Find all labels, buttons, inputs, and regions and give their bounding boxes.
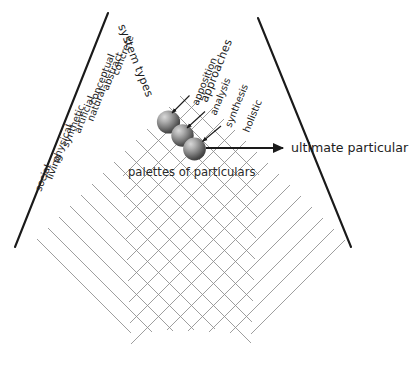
axis-ticks-approaches: apposition analysis synthesis holistic	[190, 56, 264, 134]
pointer-arrow-1	[172, 96, 190, 114]
grid-lines-down-left	[123, 97, 345, 344]
field-label-palettes: palettes of particulars	[128, 165, 255, 179]
callout-label-ultimate-particular: ultimate particular	[291, 140, 409, 155]
diagram-canvas: system types approaches concrete abstrac…	[0, 0, 414, 367]
axis-ticks-system-types: concrete abstract conceptual natural art…	[33, 33, 136, 192]
axis-approaches	[258, 18, 351, 247]
tick-label-holistic: holistic	[241, 98, 264, 134]
diagram-svg: system types approaches concrete abstrac…	[0, 0, 414, 367]
